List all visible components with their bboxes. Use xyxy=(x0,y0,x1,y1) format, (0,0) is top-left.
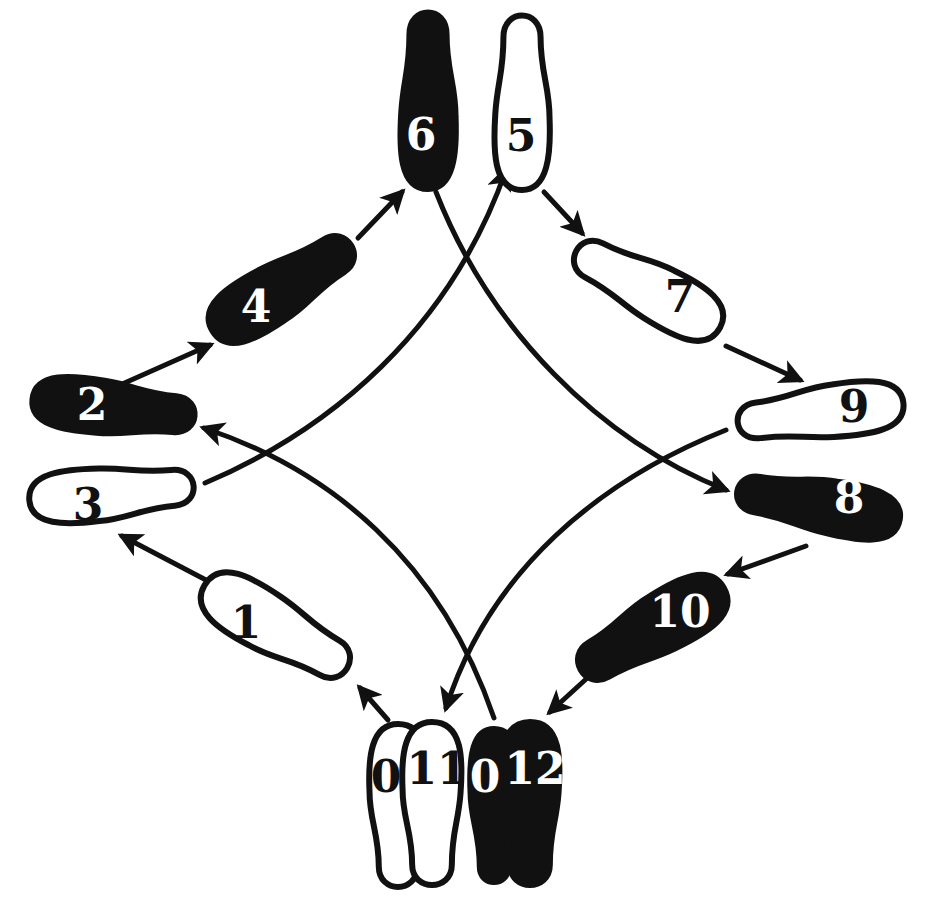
step-paths xyxy=(120,170,806,720)
step-1-footprint xyxy=(190,560,362,694)
step-5-footprint xyxy=(494,15,549,190)
step-6-footprint xyxy=(400,12,455,189)
path-1-to-3 xyxy=(122,536,206,580)
step-2-footprint xyxy=(30,373,198,443)
step-1-label: 1 xyxy=(231,597,262,648)
step-10-label: 10 xyxy=(649,586,710,637)
step-5-label: 5 xyxy=(506,110,537,161)
step-8-footprint xyxy=(733,465,905,546)
path-5-to-7 xyxy=(544,192,582,233)
step-7-footprint xyxy=(563,225,734,352)
path-8-to-10 xyxy=(728,546,806,574)
step-12-label: 12 xyxy=(504,743,565,794)
start-right-label: 0 xyxy=(470,751,501,802)
step-6-label: 6 xyxy=(406,109,437,160)
step-2-label: 2 xyxy=(77,379,108,430)
step-9-footprint xyxy=(734,376,906,449)
path-2-to-4 xyxy=(120,345,210,385)
path-4-to-6 xyxy=(358,192,402,238)
step-4-label: 4 xyxy=(241,281,272,332)
path-0-to-1 xyxy=(360,688,388,720)
step-11-label: 11 xyxy=(406,743,467,794)
step-labels: 00123456789101112 xyxy=(73,109,870,802)
step-3-footprint xyxy=(27,459,196,527)
dance-step-diagram: 00123456789101112 xyxy=(0,0,928,912)
start-left-label: 0 xyxy=(371,751,402,802)
step-8-label: 8 xyxy=(834,472,865,523)
step-9-label: 9 xyxy=(839,381,870,432)
path-0-to-2 xyxy=(204,428,494,718)
path-7-to-9 xyxy=(726,346,800,380)
step-7-label: 7 xyxy=(665,271,696,322)
step-3-label: 3 xyxy=(73,479,104,530)
step-4-footprint xyxy=(198,221,367,356)
